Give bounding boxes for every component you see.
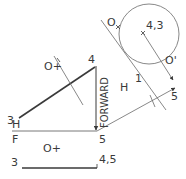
label-1-aux: 1	[135, 72, 142, 85]
label-forward: FORWARD	[99, 77, 110, 128]
label-o-top: O	[107, 16, 116, 29]
label-4-3: 4,3	[146, 19, 164, 32]
label-3-front: 3	[11, 156, 18, 169]
label-h-fold: H	[12, 118, 20, 131]
label-4-5-front: 4,5	[99, 153, 117, 166]
o-mark-icon	[116, 25, 120, 29]
label-4-top: 4	[88, 53, 95, 66]
orthographic-diagram: 4,3 O O' 5 H 1 4 3 O+ FORWARD H F 5 O+ 3…	[0, 0, 186, 179]
label-o-plus-top: O+	[44, 60, 62, 73]
fold-line-h-1	[101, 20, 166, 110]
label-f-fold: F	[12, 133, 18, 146]
label-h-aux: H	[120, 81, 128, 94]
label-5-right: 5	[171, 90, 178, 103]
label-5-fold: 5	[99, 133, 106, 146]
edge-3-4-top	[19, 67, 95, 118]
label-o-plus-front: O+	[43, 142, 61, 155]
label-o-prime: O'	[165, 54, 177, 67]
